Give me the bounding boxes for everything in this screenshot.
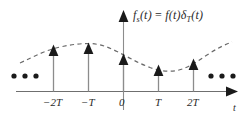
impulse-stem-minus-T — [84, 43, 94, 92]
impulse-stem-zero — [119, 54, 129, 92]
equation-equals: = — [155, 8, 162, 22]
impulse-stem-2T — [189, 59, 199, 92]
tick-label-zero: 0 — [119, 97, 125, 108]
impulse-stem-minus-2T — [49, 45, 59, 92]
impulse-stem-T — [154, 65, 164, 92]
equation-label: fs(t) = f(t)δT(t) — [133, 9, 203, 25]
ellipsis-right — [208, 73, 235, 78]
equation-fs: fs(t) — [133, 8, 152, 22]
sampled-signal-figure: fs(t) = f(t)δT(t) −2T −T 0 T 2T t — [0, 0, 247, 124]
ellipsis-left — [11, 73, 38, 78]
tick-label-2T: 2T — [187, 97, 199, 108]
horizontal-time-axis — [16, 87, 238, 97]
tick-label-T: T — [155, 97, 161, 108]
envelope-dashed-curve — [20, 42, 232, 71]
x-axis-label: t — [233, 103, 236, 113]
tick-label-minus-2T: −2T — [43, 97, 62, 108]
equation-ft: f(t) — [165, 8, 180, 22]
equation-delta-T: δT(t) — [181, 8, 203, 22]
tick-label-minus-T: −T — [81, 97, 95, 108]
